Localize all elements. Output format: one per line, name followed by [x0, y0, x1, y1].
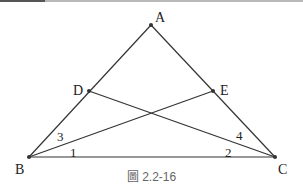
point-a [149, 23, 153, 27]
figure-caption: 圖 2.2-16 [0, 167, 303, 184]
label-a: A [155, 10, 166, 25]
segment-cd [89, 91, 275, 157]
point-b [27, 155, 31, 159]
angle-label-2: 2 [225, 145, 232, 160]
angle-label-3: 3 [57, 129, 64, 144]
segment-be [29, 91, 213, 157]
angle-label-4: 4 [236, 128, 243, 143]
label-e: E [220, 83, 229, 98]
triangle-diagram: A B C D E 1 2 3 4 [0, 0, 303, 194]
label-d: D [73, 83, 83, 98]
point-c [273, 155, 277, 159]
point-e [211, 89, 215, 93]
point-d [87, 89, 91, 93]
angle-label-1: 1 [70, 145, 77, 160]
